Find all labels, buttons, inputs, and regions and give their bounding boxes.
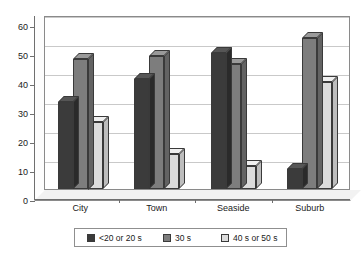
legend-swatch-icon	[163, 234, 171, 242]
legend-swatch-icon	[87, 234, 95, 242]
bar-face	[287, 169, 302, 189]
legend-label: <20 or 20 s	[99, 233, 142, 243]
bars-layer	[34, 16, 350, 200]
bar-side	[179, 148, 185, 189]
x-tick-label-city: City	[45, 203, 115, 213]
bar-side	[241, 58, 247, 189]
bar-side	[317, 32, 323, 189]
legend-swatch-icon	[221, 234, 229, 242]
bar-group-town	[134, 15, 179, 189]
y-tick-label: 30	[2, 110, 28, 119]
bar-face	[58, 102, 73, 189]
bar-group-suburb	[287, 15, 332, 189]
bar-side	[73, 96, 79, 189]
x-tick-mark	[195, 199, 196, 203]
bar-side	[103, 116, 109, 189]
bar-side	[88, 53, 94, 190]
bar-group-seaside	[211, 15, 256, 189]
legend-item-0: <20 or 20 s	[87, 229, 142, 246]
y-tick-label: 60	[2, 23, 28, 32]
bar	[287, 169, 302, 189]
legend-label: 40 s or 50 s	[233, 233, 277, 243]
y-tick-label: 20	[2, 139, 28, 148]
legend-label: 30 s	[175, 233, 191, 243]
bar-face	[134, 79, 149, 189]
x-tick-mark	[119, 199, 120, 203]
y-tick-label: 40	[2, 81, 28, 90]
bar-side	[149, 73, 155, 189]
bar-side	[226, 47, 232, 189]
bar-group-city	[58, 15, 103, 189]
y-tick-label: 50	[2, 52, 28, 61]
legend-item-2: 40 s or 50 s	[221, 229, 277, 246]
y-tick-label: 10	[2, 168, 28, 177]
bar-face	[211, 53, 226, 189]
x-tick-label-town: Town	[122, 203, 192, 213]
bar	[134, 79, 149, 189]
bar-side	[332, 76, 338, 189]
x-tick-mark	[272, 199, 273, 203]
y-tick-mark	[30, 201, 35, 202]
x-tick-label-suburb: Suburb	[275, 203, 345, 213]
legend-item-1: 30 s	[163, 229, 191, 246]
x-tick-label-seaside: Seaside	[198, 203, 268, 213]
bar	[211, 53, 226, 189]
bar-side	[164, 50, 170, 189]
bar	[58, 102, 73, 189]
y-tick-label: 0	[2, 197, 28, 206]
chart-legend: <20 or 20 s30 s40 s or 50 s	[74, 228, 287, 247]
